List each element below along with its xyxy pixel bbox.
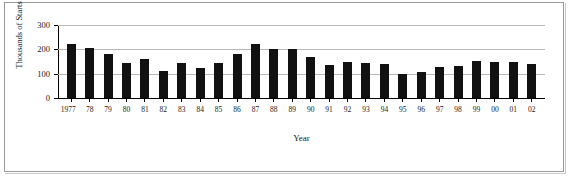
bar-slot xyxy=(430,25,448,98)
bar-slot xyxy=(265,25,283,98)
x-tick-label-87: 87 xyxy=(252,106,260,114)
x-tick-slot xyxy=(301,98,319,103)
x-tick-label-80: 80 xyxy=(123,106,131,114)
x-tick-slot xyxy=(209,98,227,103)
x-tick-label-97: 97 xyxy=(436,106,444,114)
x-tick-labels: 1977787980818283848586878889909192939495… xyxy=(58,106,545,120)
x-label-slot: 97 xyxy=(430,106,448,120)
y-tick-label-200: 200 xyxy=(37,45,50,54)
x-tick-slot xyxy=(394,98,412,103)
x-tick-mark-88 xyxy=(273,98,274,102)
x-tick-label-92: 92 xyxy=(344,106,352,114)
x-label-slot: 99 xyxy=(467,106,485,120)
x-tick-slot xyxy=(283,98,301,103)
bar-94 xyxy=(380,64,389,98)
x-tick-slot xyxy=(191,98,209,103)
x-label-slot: 82 xyxy=(154,106,172,120)
x-tick-mark-91 xyxy=(329,98,330,102)
x-tick-slot xyxy=(523,98,541,103)
x-tick-slot xyxy=(338,98,356,103)
x-tick-mark-79 xyxy=(108,98,109,102)
bar-78 xyxy=(85,48,94,98)
x-tick-mark-95 xyxy=(402,98,403,102)
bar-slot xyxy=(467,25,485,98)
x-tick-mark-94 xyxy=(384,98,385,102)
x-tick-slot xyxy=(136,98,154,103)
x-tick-label-85: 85 xyxy=(215,106,223,114)
bar-slot xyxy=(283,25,301,98)
x-tick-mark-92 xyxy=(347,98,348,102)
x-tick-label-81: 81 xyxy=(141,106,149,114)
bar-88 xyxy=(269,49,278,98)
x-tick-slot xyxy=(375,98,393,103)
bar-slot xyxy=(62,25,80,98)
x-label-slot: 89 xyxy=(283,106,301,120)
x-tick-mark-84 xyxy=(200,98,201,102)
x-tick-label-88: 88 xyxy=(270,106,278,114)
x-label-slot: 87 xyxy=(246,106,264,120)
x-tick-label-86: 86 xyxy=(233,106,241,114)
x-label-slot: 80 xyxy=(117,106,135,120)
x-label-slot: 86 xyxy=(228,106,246,120)
x-label-slot: 94 xyxy=(375,106,393,120)
bar-81 xyxy=(140,59,149,98)
bar-slot xyxy=(375,25,393,98)
x-label-slot: 83 xyxy=(173,106,191,120)
x-tick-label-91: 91 xyxy=(325,106,333,114)
chart-figure: Thousands of Starts 3002001000 197778798… xyxy=(0,0,568,176)
x-tick-label-82: 82 xyxy=(160,106,168,114)
x-label-slot: 98 xyxy=(449,106,467,120)
bar-slot xyxy=(173,25,191,98)
bar-87 xyxy=(251,44,260,98)
x-tick-slot xyxy=(62,98,80,103)
bar-slot xyxy=(117,25,135,98)
bar-slot xyxy=(504,25,522,98)
x-label-slot: 90 xyxy=(301,106,319,120)
y-tick-label-0: 0 xyxy=(46,94,50,103)
y-tick-label-300: 300 xyxy=(37,21,50,30)
bar-89 xyxy=(288,49,297,98)
x-tick-slot xyxy=(357,98,375,103)
bar-slot xyxy=(320,25,338,98)
x-label-slot: 81 xyxy=(136,106,154,120)
x-label-slot: 95 xyxy=(394,106,412,120)
bar-slot xyxy=(246,25,264,98)
bar-slot xyxy=(191,25,209,98)
bar-95 xyxy=(398,74,407,98)
bar-84 xyxy=(196,68,205,98)
x-tick-slot xyxy=(117,98,135,103)
x-tick-slot xyxy=(154,98,172,103)
bar-91 xyxy=(325,65,334,98)
x-label-slot: 88 xyxy=(265,106,283,120)
x-label-slot: 79 xyxy=(99,106,117,120)
bar-slot xyxy=(394,25,412,98)
x-label-slot: 78 xyxy=(80,106,98,120)
bar-83 xyxy=(177,63,186,98)
x-tick-mark-99 xyxy=(476,98,477,102)
x-tick-label-96: 96 xyxy=(417,106,425,114)
bar-slot xyxy=(80,25,98,98)
x-tick-mark-1977 xyxy=(71,98,72,102)
x-tick-slot xyxy=(412,98,430,103)
x-tick-mark-87 xyxy=(255,98,256,102)
x-tick-mark-96 xyxy=(421,98,422,102)
bar-slot xyxy=(301,25,319,98)
x-tick-label-02: 02 xyxy=(528,106,536,114)
bar-82 xyxy=(159,71,168,98)
x-tick-mark-82 xyxy=(163,98,164,102)
bar-1977 xyxy=(67,44,76,99)
bar-series xyxy=(58,25,545,98)
x-tick-slot xyxy=(430,98,448,103)
x-tick-label-01: 01 xyxy=(510,106,518,114)
bar-02 xyxy=(527,64,536,98)
bar-00 xyxy=(490,62,499,99)
y-tick-labels: 3002001000 xyxy=(14,18,50,106)
x-tick-label-84: 84 xyxy=(196,106,204,114)
x-tick-label-94: 94 xyxy=(381,106,389,114)
x-tick-label-93: 93 xyxy=(362,106,370,114)
bar-slot xyxy=(412,25,430,98)
bar-slot xyxy=(136,25,154,98)
x-tick-label-98: 98 xyxy=(454,106,462,114)
x-label-slot: 01 xyxy=(504,106,522,120)
x-tick-mark-78 xyxy=(89,98,90,102)
